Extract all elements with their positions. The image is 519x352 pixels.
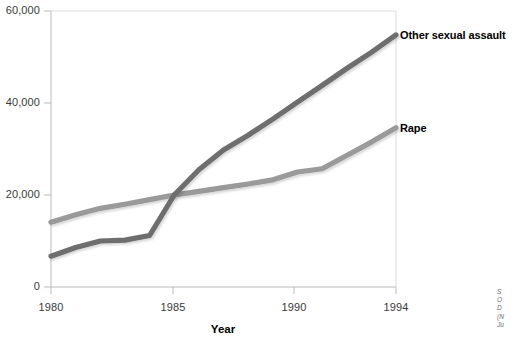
x-axis-tick-label-1990: 1990 [264, 301, 324, 313]
chart-container: 60,000 40,000 20,000 0 1980 1985 1990 19… [0, 0, 519, 352]
x-axis-title: Year [178, 323, 268, 335]
y-axis-tick-label-0: 0 [0, 280, 40, 292]
source-note-line-5: Ju [497, 321, 519, 329]
source-note-line-4: (N [497, 313, 519, 321]
x-axis-tick-label-1994: 1994 [366, 301, 426, 313]
y-axis-tick-label-40000: 40,000 [0, 96, 40, 108]
y-axis-tick-label-60000: 60,000 [0, 4, 40, 16]
source-note-line-1: S [497, 288, 519, 296]
x-axis-tick-label-1980: 1980 [21, 301, 81, 313]
series-label-other-sexual-assault: Other sexual assault [400, 29, 506, 41]
series-label-rape: Rape [400, 122, 427, 134]
x-axis-tick-label-1985: 1985 [143, 301, 203, 313]
source-note-line-3: D [497, 304, 519, 312]
y-axis-tick-label-20000: 20,000 [0, 188, 40, 200]
chart-plot-area [0, 0, 519, 352]
source-note: S O D (N Ju [497, 288, 519, 329]
source-note-line-2: O [497, 296, 519, 304]
series-line-rape [51, 128, 396, 222]
series-line-other-sexual-assault [51, 35, 396, 256]
